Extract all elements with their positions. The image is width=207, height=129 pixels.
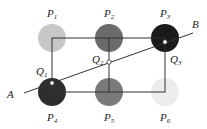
label-p6: P6 [159,111,171,125]
point-q1 [50,81,54,85]
label-p3: P3 [159,7,171,21]
label-q1: Q1 [36,65,47,79]
diagram-canvas: P1 P2 P3 P4 P5 P6 Q1 Q2 Q3 A B [0,0,207,129]
point-q3 [163,40,167,44]
label-p4: P4 [46,111,58,125]
label-q3: Q3 [170,53,182,67]
label-p5: P5 [103,111,115,125]
label-q2: Q2 [92,53,104,67]
label-b: B [192,18,199,30]
label-p1: P1 [46,7,57,21]
label-a: A [6,88,14,100]
label-p2: P2 [103,7,115,21]
point-q2 [107,60,111,64]
